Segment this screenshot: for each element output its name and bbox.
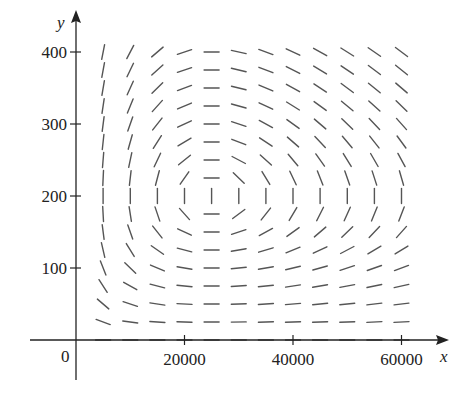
- slope-segment: [396, 101, 407, 111]
- slope-segment: [150, 322, 165, 323]
- slope-segment: [367, 303, 382, 305]
- y-axis-label: y: [55, 13, 65, 32]
- slope-segment: [317, 207, 324, 220]
- slope-segment: [341, 247, 354, 254]
- slope-segment: [156, 171, 160, 186]
- slope-segment: [259, 267, 274, 270]
- slope-segment: [313, 285, 328, 288]
- slope-segment: [371, 154, 379, 167]
- x-tick-label: 20000: [163, 350, 206, 369]
- slope-segment: [150, 284, 165, 288]
- slope-segment: [177, 68, 191, 73]
- slope-segment: [340, 285, 355, 288]
- slope-segment: [259, 103, 273, 109]
- slope-segment: [177, 248, 191, 252]
- slope-segment: [342, 119, 353, 129]
- y-tick-label: 100: [42, 259, 68, 278]
- direction-field-chart: 200004000060000 100200300400 x y 0: [0, 0, 474, 398]
- slope-segment: [150, 303, 165, 305]
- slope-segment: [102, 45, 105, 60]
- slope-segment: [178, 103, 192, 109]
- slope-segment: [313, 266, 327, 270]
- slope-segment: [233, 173, 244, 183]
- slope-segment: [368, 246, 381, 254]
- y-tick-label: 300: [42, 115, 68, 134]
- slope-segment: [153, 118, 162, 130]
- slope-segment: [315, 137, 325, 148]
- slope-segment: [396, 65, 408, 74]
- slope-segment: [395, 246, 408, 254]
- slope-segment: [399, 207, 404, 221]
- slope-segment: [177, 50, 191, 55]
- slope-segment: [290, 171, 296, 185]
- y-tick-label: 400: [42, 43, 68, 62]
- slope-segment: [178, 121, 192, 127]
- slope-segment: [341, 66, 353, 74]
- y-tick-label: 200: [42, 187, 68, 206]
- slope-segment: [232, 86, 247, 90]
- slope-segment: [178, 138, 191, 146]
- slope-segment: [177, 267, 192, 269]
- slope-segment: [313, 322, 328, 323]
- slope-segment: [126, 244, 134, 257]
- slope-segment: [286, 49, 300, 55]
- slope-segment: [367, 285, 382, 288]
- slope-segment: [396, 48, 408, 57]
- slope-segment: [231, 286, 246, 287]
- slope-segment: [232, 230, 246, 235]
- slope-segment: [152, 83, 163, 94]
- slope-segment: [129, 153, 132, 168]
- slope-segment: [314, 84, 327, 92]
- slope-segment: [177, 285, 192, 286]
- slope-segment: [127, 99, 133, 113]
- slope-segment: [398, 153, 405, 166]
- slope-segment: [129, 207, 131, 222]
- slope-segment: [152, 65, 163, 75]
- slope-segment: [102, 63, 105, 78]
- slope-segment: [259, 49, 273, 54]
- slope-segment: [286, 322, 301, 323]
- slope-segment: [262, 172, 270, 185]
- slope-segment: [372, 207, 378, 221]
- slope-segment: [153, 136, 161, 149]
- slope-segment: [178, 229, 192, 235]
- slope-segment: [103, 207, 104, 222]
- slope-segment: [102, 225, 104, 240]
- slope-segment: [399, 171, 403, 185]
- x-tick-label: 40000: [272, 350, 315, 369]
- slope-segment: [397, 136, 406, 148]
- slope-segment: [342, 101, 354, 111]
- slope-segment: [259, 67, 273, 72]
- slope-segment: [287, 102, 300, 110]
- slope-segment: [342, 227, 353, 237]
- slope-segment: [151, 246, 163, 255]
- slope-segment: [367, 266, 381, 271]
- slope-segment: [397, 118, 407, 129]
- slope-segment: [288, 154, 298, 166]
- slope-segment: [260, 155, 271, 165]
- slope-segment: [232, 139, 246, 144]
- slope-segment: [344, 207, 350, 221]
- slope-segment: [102, 135, 104, 150]
- slope-segment: [343, 154, 351, 167]
- slope-segment: [314, 48, 327, 55]
- slope-segment: [368, 66, 380, 75]
- slope-segment: [233, 210, 245, 219]
- slope-segment: [128, 117, 133, 131]
- slope-segment: [314, 66, 327, 74]
- slope-segment: [127, 81, 133, 95]
- slope-segment: [128, 135, 132, 149]
- slope-segment: [124, 282, 137, 289]
- slope-segment: [101, 243, 104, 258]
- slope-segment: [102, 99, 104, 114]
- slope-segment: [314, 227, 325, 237]
- slope-segment: [123, 302, 137, 307]
- slope-segment: [367, 322, 382, 323]
- slope-segment: [103, 153, 104, 168]
- slope-segment: [286, 303, 301, 304]
- slope-segment: [394, 284, 409, 287]
- slope-segment: [286, 67, 299, 74]
- slope-segment: [100, 261, 106, 275]
- slope-segment: [369, 119, 379, 130]
- slope-segment: [102, 117, 104, 132]
